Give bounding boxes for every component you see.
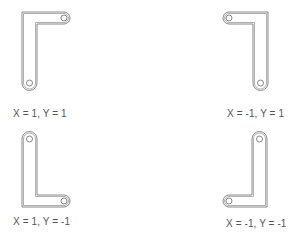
bracket-diagram [0,0,305,239]
bracket-shape-xm1-y1 [223,12,268,91]
bracket-shape-xm1-ym1 [223,132,267,207]
label-x1-y1: X = 1, Y = 1 [13,108,67,119]
label-xm1-y1: X = -1, Y = 1 [227,108,284,119]
bracket-shape-x1-y1 [22,12,70,91]
bracket-shape-x1-ym1 [22,132,70,207]
label-xm1-ym1: X = -1, Y = -1 [226,218,287,229]
label-x1-ym1: X = 1, Y = -1 [13,216,70,227]
